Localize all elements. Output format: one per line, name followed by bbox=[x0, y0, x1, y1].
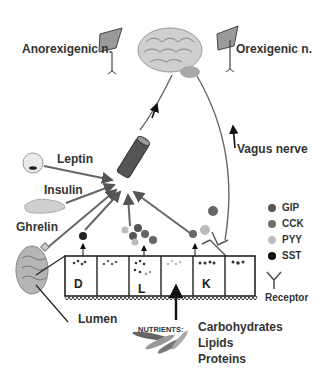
legend-pyy-label: PYY bbox=[282, 234, 302, 245]
anorexigenic-label: Anorexigenic n. bbox=[22, 42, 112, 56]
vagus-nerve-label: Vagus nerve bbox=[237, 142, 308, 156]
leptin-label: Leptin bbox=[57, 152, 93, 166]
insulin-label: Insulin bbox=[44, 183, 83, 197]
cell-label-l: L bbox=[138, 282, 145, 296]
ghrelin-label: Ghrelin bbox=[16, 220, 58, 234]
orexigenic-label: Orexigenic n. bbox=[236, 42, 312, 56]
afferent-nerve bbox=[140, 75, 172, 130]
receptor-branch-icon bbox=[200, 206, 228, 258]
cell-label-k: K bbox=[202, 277, 211, 291]
lumen-label: Lumen bbox=[78, 312, 117, 326]
legend-gip-label: GIP bbox=[282, 202, 299, 213]
legend-pyy-dot bbox=[268, 236, 276, 244]
pancreas-icon bbox=[25, 199, 65, 213]
adipocyte-icon bbox=[23, 153, 43, 173]
receptor-icon bbox=[267, 272, 281, 289]
signal-arrow-icon bbox=[233, 126, 235, 148]
nutrient-proteins: Proteins bbox=[198, 352, 246, 366]
nutrient-carbohydrates: Carbohydrates bbox=[198, 320, 283, 334]
orexigenic-neuron-icon bbox=[217, 26, 238, 72]
cell-label-d: D bbox=[74, 277, 83, 291]
brain-icon bbox=[138, 28, 202, 78]
legend-cck-label: CCK bbox=[282, 218, 304, 229]
legend-cck-dot bbox=[268, 220, 276, 228]
nutrient-lipids: Lipids bbox=[198, 336, 233, 350]
legend-sst-dot bbox=[268, 252, 276, 260]
legend-sst-label: SST bbox=[282, 250, 301, 261]
nerve-fiber-icon bbox=[116, 135, 151, 179]
legend-gip-dot bbox=[268, 204, 276, 212]
epithelium bbox=[65, 256, 257, 300]
legend-receptor-label: Receptor bbox=[265, 292, 308, 303]
nutrients-label: NUTRIENTS: bbox=[138, 325, 183, 334]
